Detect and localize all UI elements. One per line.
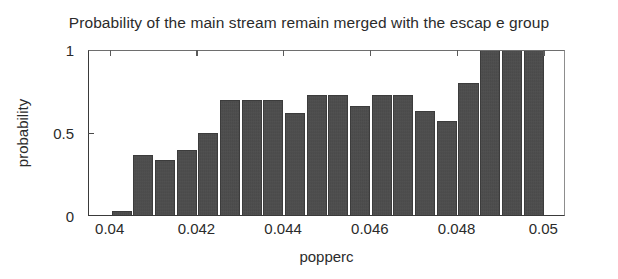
y-axis-tick-labels: 00.51 [0, 0, 82, 279]
bar [177, 150, 197, 216]
x-axis-label: popperc [88, 248, 565, 265]
x-axis-tick [370, 50, 371, 56]
y-axis-tick-label: 0 [66, 208, 74, 225]
x-axis-tick-label: 0.05 [529, 220, 558, 237]
x-axis-tick [110, 50, 111, 56]
y-axis-tick-label: 0.5 [53, 125, 74, 142]
x-axis-tick-label: 0.044 [264, 220, 302, 237]
bar [393, 95, 413, 216]
bar [220, 100, 240, 216]
x-axis-tick [283, 50, 284, 56]
bar [242, 100, 262, 216]
bar [307, 95, 327, 216]
bar [437, 121, 457, 216]
bar-chart-figure: Probability of the main stream remain me… [0, 0, 618, 279]
bar [285, 113, 305, 216]
x-axis-tick-label: 0.048 [438, 220, 476, 237]
y-axis-tick-label: 1 [66, 42, 74, 59]
bar [480, 50, 500, 216]
bar [155, 160, 175, 216]
x-axis-tick [543, 50, 544, 56]
x-axis-tick-label: 0.04 [95, 220, 124, 237]
bar [372, 95, 392, 216]
bar [524, 50, 544, 216]
bar [112, 211, 132, 216]
bar [458, 83, 478, 216]
bar [263, 100, 283, 216]
bar [198, 133, 218, 216]
bar [415, 111, 435, 216]
x-axis-tick-label: 0.046 [351, 220, 389, 237]
y-axis-label: probability [14, 63, 31, 203]
bar-series [88, 50, 565, 216]
y-axis-tick [88, 133, 94, 134]
x-axis-tick [196, 50, 197, 56]
bar [133, 155, 153, 216]
chart-title: Probability of the main stream remain me… [0, 14, 618, 32]
bar [350, 106, 370, 216]
x-axis-tick [457, 50, 458, 56]
x-axis-tick-label: 0.042 [178, 220, 216, 237]
plot-area [88, 50, 565, 216]
bar [328, 95, 348, 216]
bar [502, 50, 522, 216]
